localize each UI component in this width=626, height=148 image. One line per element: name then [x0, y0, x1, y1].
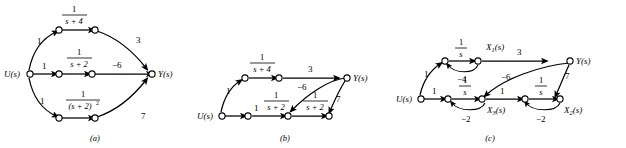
- panel-a-bottom-output-gain: 7: [141, 111, 146, 121]
- panel-a-top-input-gain: 1: [37, 36, 42, 46]
- panel-c-integrator-right: 1 s: [535, 75, 547, 97]
- panel-b-bottom-first-numerator: 1: [274, 90, 278, 100]
- panel-b-top-numerator: 1: [260, 52, 264, 62]
- panel-b-output-label: Y(s): [353, 73, 368, 83]
- panel-c-x2-self-loop-gain: −2: [536, 114, 546, 124]
- panel-a-node-top-1: [56, 27, 62, 33]
- panel-b-bottom-second-denominator: s + 2: [306, 102, 324, 112]
- panel-a-node-bottom-2: [92, 115, 98, 121]
- panel-c-x1-tail: (s): [495, 42, 505, 52]
- panel-c-x2-to-y-gain: 7: [565, 71, 570, 81]
- panel-c-x1-to-y-gain: 3: [517, 47, 522, 57]
- panel-c-node-bottom-3: [522, 96, 528, 102]
- panel-a: U(s) Y(s) 1 3 1 s + 4 1 −6 1 s + 2 1 7 1…: [4, 4, 173, 143]
- panel-b-node-bottom-1: [245, 113, 251, 119]
- figure-canvas: U(s) Y(s) 1 3 1 s + 4 1 −6 1 s + 2 1 7 1…: [0, 0, 626, 148]
- panel-b-node-output: [344, 75, 350, 81]
- panel-c-x2-self-loop: [526, 103, 560, 110]
- panel-a-node-output: [149, 71, 155, 77]
- panel-c-integrator-top-denominator: s: [459, 49, 463, 59]
- svg-text:X1(s): X1(s): [485, 42, 504, 53]
- panel-b-top-input-gain: 1: [226, 86, 231, 96]
- panel-b-seven-gain: 7: [336, 94, 341, 104]
- panel-a-middle-input-gain: 1: [42, 61, 47, 71]
- panel-c-node-x2: [557, 96, 563, 102]
- panel-c-input-label: U(s): [396, 94, 412, 104]
- panel-c-caption: (c): [485, 133, 495, 143]
- panel-c-u-to-top-gain: 1: [424, 69, 429, 79]
- panel-c-x2-tail: (s): [573, 105, 583, 115]
- panel-c-x3-label: X3(s): [486, 105, 505, 116]
- panel-c-x3-tail: (s): [496, 105, 506, 115]
- panel-c-node-output: [567, 58, 573, 64]
- panel-a-bottom-branch: [29, 78, 146, 118]
- panel-b-bottom-first-denominator: s + 2: [267, 102, 285, 112]
- panel-c-x1-self-loop: [448, 65, 478, 72]
- panel-a-top-denominator: s + 4: [65, 16, 83, 26]
- panel-b-node-top-1: [242, 75, 248, 81]
- panel-a-input-label: U(s): [4, 69, 20, 79]
- panel-b-caption: (b): [280, 133, 290, 143]
- panel-a-bottom-input-gain: 1: [40, 96, 45, 106]
- panel-c-node-top-1: [442, 58, 448, 64]
- panel-a-node-top-2: [92, 27, 98, 33]
- panel-b-top-denominator: s + 4: [253, 64, 271, 74]
- panel-c-x3-to-y-gain: −6: [501, 72, 511, 82]
- panel-b-minus-six-gain: −6: [297, 82, 307, 92]
- panel-a-middle-output-gain: −6: [112, 60, 122, 70]
- panel-c-x3-self-loop-gain: −2: [461, 114, 471, 124]
- panel-b-node-bottom-2: [285, 113, 291, 119]
- panel-c-integrator-mid-denominator: s: [463, 87, 467, 97]
- panel-a-top-output-gain: 3: [136, 35, 141, 45]
- panel-c-x3-to-y-edge: [486, 63, 569, 95]
- panel-c-x1-label: X1(s): [485, 42, 504, 53]
- panel-a-middle-numerator: 1: [77, 47, 81, 57]
- panel-c-u-to-bottom-gain: 1: [432, 86, 437, 96]
- panel-a-output-label: Y(s): [158, 69, 173, 79]
- panel-c: U(s) Y(s) X1(s) X3(s) X2(s) 1: [396, 37, 591, 143]
- panel-c-integrator-mid-numerator: 1: [463, 75, 467, 85]
- panel-b-bottom-second-numerator: 1: [313, 90, 317, 100]
- panel-c-output-label: Y(s): [576, 56, 591, 66]
- svg-text:X3(s): X3(s): [486, 105, 505, 116]
- panel-c-integrator-right-denominator: s: [539, 87, 543, 97]
- panel-a-bottom-denominator-exponent: 2: [96, 100, 99, 106]
- panel-b-node-input: [219, 113, 225, 119]
- panel-a-node-bottom-1: [56, 115, 62, 121]
- panel-c-integrator-top-numerator: 1: [459, 37, 463, 47]
- panel-c-input-to-top: [420, 64, 440, 95]
- panel-c-node-bottom-1: [445, 96, 451, 102]
- panel-c-node-x1: [475, 58, 481, 64]
- panel-b-bottom-input-gain: 1: [254, 103, 259, 113]
- panel-b-input-to-top: [221, 81, 240, 112]
- panel-b-top-output-gain: 3: [308, 64, 313, 74]
- panel-a-caption: (a): [90, 133, 100, 143]
- panel-c-integrator-top: 1 s: [455, 37, 467, 59]
- panel-b-node-top-2: [276, 75, 282, 81]
- panel-a-node-input: [27, 71, 33, 77]
- panel-a-top-numerator: 1: [72, 4, 76, 14]
- panel-c-x3-self-loop: [452, 103, 485, 110]
- panel-a-node-mid-2: [89, 71, 95, 77]
- panel-c-x2-label: X2(s): [563, 105, 582, 116]
- panel-a-middle-denominator: s + 2: [70, 59, 88, 69]
- panel-a-bottom-denominator: (s + 2): [68, 101, 91, 111]
- panel-a-bottom-numerator: 1: [81, 89, 85, 99]
- svg-text:X2(s): X2(s): [563, 105, 582, 116]
- panel-b-node-bottom-3: [326, 113, 332, 119]
- panel-a-node-mid-1: [56, 71, 62, 77]
- panel-b: U(s) Y(s) 1 3 1 s + 4 1 −6 1 s + 2 7 1 s…: [197, 52, 368, 143]
- panel-c-node-input: [418, 96, 424, 102]
- panel-b-input-label: U(s): [197, 111, 213, 121]
- panel-c-x3-to-x2-gain: 1: [500, 86, 505, 96]
- panel-c-integrator-right-numerator: 1: [539, 75, 543, 85]
- panel-c-node-x3: [479, 96, 485, 102]
- signal-flow-graph-figure: U(s) Y(s) 1 3 1 s + 4 1 −6 1 s + 2 1 7 1…: [0, 0, 626, 148]
